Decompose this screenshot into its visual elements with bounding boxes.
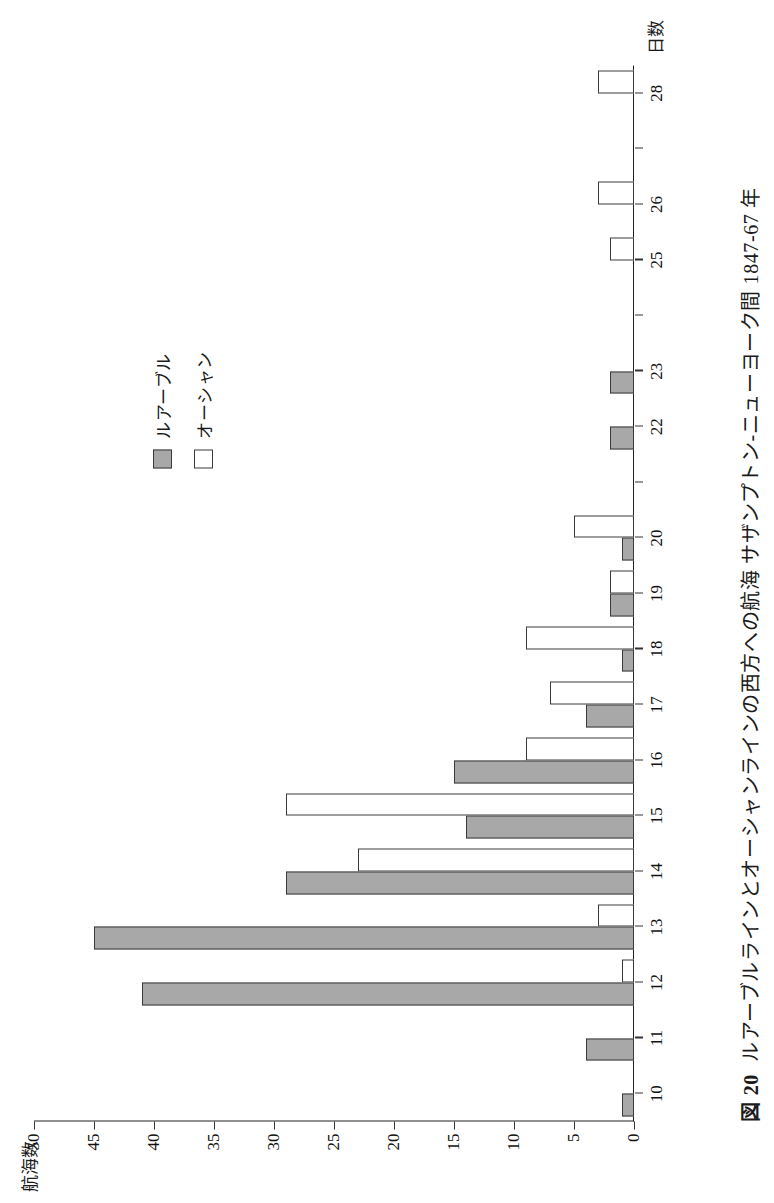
value-axis-tick-label: 20	[385, 1133, 402, 1173]
category-axis-label: 22	[647, 406, 667, 446]
bar-ルアーブル-19	[610, 593, 634, 616]
rotated-figure-wrapper: 航海数 05101520253035404550 日数 101112131415…	[0, 0, 774, 1203]
legend-swatch-white-icon	[194, 449, 213, 468]
value-axis-tick-label: 45	[85, 1133, 102, 1173]
figure: 航海数 05101520253035404550 日数 101112131415…	[0, 0, 774, 1203]
bar-ルアーブル-16	[454, 760, 634, 783]
bar-ルアーブル-20	[622, 537, 634, 560]
value-axis-tick	[34, 1121, 35, 1129]
value-axis-tick-label: 0	[625, 1133, 642, 1173]
bar-group	[34, 404, 634, 450]
bar-group	[34, 181, 634, 227]
category-axis-label: 26	[647, 184, 667, 224]
legend-label-luarburu: ルアーブル	[150, 353, 175, 439]
value-axis-tick-label: 30	[265, 1133, 282, 1173]
category-axis-label: 19	[647, 573, 667, 613]
bar-オーシャン-28	[598, 70, 634, 93]
category-axis-label: 10	[647, 1073, 667, 1113]
bar-group	[34, 1070, 634, 1116]
category-axis-tick	[635, 981, 643, 982]
category-axis-tick	[635, 92, 643, 93]
bar-group	[34, 70, 634, 116]
bar-オーシャン-13	[598, 904, 634, 927]
category-axis-label: 13	[647, 906, 667, 946]
category-axis-label: 25	[647, 240, 667, 280]
category-axis-tick	[635, 647, 643, 648]
category-axis-label: 15	[647, 795, 667, 835]
bar-group	[34, 904, 634, 950]
value-axis-tick-label: 40	[145, 1133, 162, 1173]
bar-ルアーブル-23	[610, 371, 634, 394]
bar-オーシャン-18	[526, 626, 634, 649]
category-axis-tick	[635, 870, 643, 871]
category-axis-label: 17	[647, 684, 667, 724]
legend: ルアーブル オーシャン	[150, 351, 232, 469]
figure-page: 航海数 05101520253035404550 日数 101112131415…	[0, 0, 774, 1203]
value-axis-tick-label: 35	[205, 1133, 222, 1173]
category-axis-label: 23	[647, 351, 667, 391]
category-axis-label: 11	[647, 1018, 667, 1058]
bar-group	[34, 459, 634, 505]
bar-ルアーブル-14	[286, 871, 634, 894]
value-axis-tick-label: 10	[505, 1133, 522, 1173]
category-axis-tick	[635, 1092, 643, 1093]
category-axis-label: 20	[647, 517, 667, 557]
bar-ルアーブル-11	[586, 1038, 634, 1061]
value-axis-tick	[514, 1121, 515, 1129]
bar-オーシャン-14	[358, 848, 634, 871]
value-axis-tick	[394, 1121, 395, 1129]
bar-group	[34, 292, 634, 338]
bar-group	[34, 515, 634, 561]
category-axis-tick	[635, 425, 643, 426]
bar-group	[34, 1015, 634, 1061]
category-axis-tick	[635, 1036, 643, 1037]
category-axis-tick	[635, 814, 643, 815]
value-axis-tick	[574, 1121, 575, 1129]
value-axis-tick-label: 15	[445, 1133, 462, 1173]
category-axis-tick	[635, 481, 643, 482]
legend-swatch-gray-icon	[153, 449, 172, 468]
legend-label-ocean: オーシャン	[191, 351, 216, 439]
legend-item-ocean: オーシャン	[191, 351, 216, 469]
category-axis-tick	[635, 536, 643, 537]
bar-ルアーブル-17	[586, 704, 634, 727]
bar-group	[34, 126, 634, 172]
figure-caption: 図 20ルアーブルラインとオーシャンラインの西方への航海 サザンプトン-ニューヨ…	[735, 61, 764, 1121]
bar-group	[34, 626, 634, 672]
bar-group	[34, 237, 634, 283]
bar-group	[34, 959, 634, 1005]
category-axis-tick	[635, 925, 643, 926]
category-axis-tick	[635, 370, 643, 371]
category-axis-tick	[635, 147, 643, 148]
value-axis-tick	[634, 1121, 635, 1129]
bar-group	[34, 793, 634, 839]
value-axis-tick	[274, 1121, 275, 1129]
bar-オーシャン-26	[598, 181, 634, 204]
bar-group	[34, 348, 634, 394]
category-axis-tick	[635, 314, 643, 315]
category-axis-label: 16	[647, 740, 667, 780]
category-axis-tick	[635, 759, 643, 760]
bar-group	[34, 570, 634, 616]
bar-オーシャン-19	[610, 570, 634, 593]
value-axis-tick-label: 25	[325, 1133, 342, 1173]
bar-オーシャン-12	[622, 959, 634, 982]
category-axis-tick	[635, 703, 643, 704]
bar-オーシャン-15	[286, 793, 634, 816]
bar-ルアーブル-13	[94, 926, 634, 949]
category-axis-label: 28	[647, 73, 667, 113]
plot-area: 航海数 05101520253035404550 日数 101112131415…	[34, 65, 634, 1121]
value-axis-tick-label: 50	[25, 1133, 42, 1173]
bar-ルアーブル-12	[142, 982, 634, 1005]
category-axis-label: 14	[647, 851, 667, 891]
bar-ルアーブル-15	[466, 815, 634, 838]
bar-ルアーブル-10	[622, 1093, 634, 1116]
value-axis-tick	[454, 1121, 455, 1129]
category-axis-title: 日数	[642, 19, 667, 53]
bar-オーシャン-25	[610, 237, 634, 260]
category-axis-tick	[635, 258, 643, 259]
figure-number: 図 20	[740, 1074, 762, 1121]
category-axis-tick	[635, 203, 643, 204]
bar-group	[34, 737, 634, 783]
category-axis-label: 18	[647, 629, 667, 669]
